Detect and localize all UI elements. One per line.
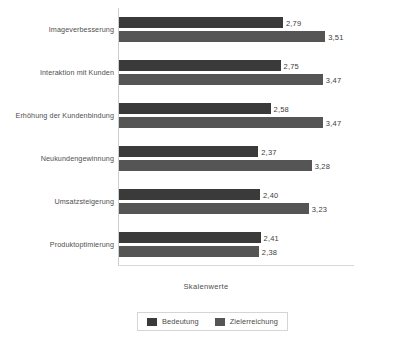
- plot-area: 2,793,512,753,472,583,472,373,282,403,23…: [118, 8, 354, 266]
- category-label: Erhöhung der Kundenbindung: [2, 111, 114, 120]
- category-label: Interaktion mit Kunden: [2, 68, 114, 77]
- bar-value-label: 2,75: [284, 61, 299, 70]
- bar-row: 3,28: [119, 160, 354, 171]
- bar-zielerreichung[interactable]: [119, 160, 312, 171]
- bar-value-label: 3,47: [326, 118, 341, 127]
- category-label: Produktoptimierung: [2, 240, 114, 249]
- bar-bedeutung[interactable]: [119, 60, 281, 71]
- bar-zielerreichung[interactable]: [119, 203, 309, 214]
- bar-bedeutung[interactable]: [119, 17, 283, 28]
- bar-value-label: 3,28: [315, 161, 330, 170]
- bar-group: 2,583,47: [119, 103, 354, 128]
- bar-bedeutung[interactable]: [119, 189, 260, 200]
- legend-label: Bedeutung: [162, 317, 199, 326]
- bar-value-label: 3,51: [328, 32, 343, 41]
- bar-value-label: 2,58: [274, 104, 289, 113]
- value-axis-line: [118, 8, 119, 266]
- bar-zielerreichung[interactable]: [119, 246, 259, 257]
- axis-title: Skalenwerte: [0, 282, 412, 291]
- category-axis: ImageverbesserungInteraktion mit KundenE…: [0, 8, 114, 266]
- bar-row: 3,47: [119, 117, 354, 128]
- bar-group: 2,373,28: [119, 146, 354, 171]
- bar-zielerreichung[interactable]: [119, 117, 323, 128]
- legend-item-zielerreichung[interactable]: Zielerreichung: [215, 317, 278, 326]
- bar-row: 2,58: [119, 103, 354, 114]
- bar-value-label: 2,38: [262, 247, 277, 256]
- bar-value-label: 3,47: [326, 75, 341, 84]
- bar-zielerreichung[interactable]: [119, 74, 323, 85]
- bar-bedeutung[interactable]: [119, 103, 271, 114]
- bar-bedeutung[interactable]: [119, 146, 258, 157]
- legend-label: Zielerreichung: [230, 317, 278, 326]
- bar-row: 2,75: [119, 60, 354, 71]
- bar-chart: ImageverbesserungInteraktion mit KundenE…: [0, 0, 412, 355]
- category-axis-line: [118, 265, 354, 266]
- category-label: Imageverbesserung: [2, 25, 114, 34]
- bar-row: 3,23: [119, 203, 354, 214]
- bar-bedeutung[interactable]: [119, 232, 261, 243]
- bar-value-label: 2,37: [261, 147, 276, 156]
- chart-legend: Bedeutung Zielerreichung: [137, 312, 288, 331]
- bar-group: 2,403,23: [119, 189, 354, 214]
- bar-value-label: 2,41: [264, 233, 279, 242]
- bar-zielerreichung[interactable]: [119, 31, 325, 42]
- bar-row: 2,40: [119, 189, 354, 200]
- category-label: Neukundengewinnung: [2, 154, 114, 163]
- bar-value-label: 3,23: [312, 204, 327, 213]
- bar-group: 2,753,47: [119, 60, 354, 85]
- bar-row: 3,47: [119, 74, 354, 85]
- bar-value-label: 2,79: [286, 18, 301, 27]
- bar-row: 2,37: [119, 146, 354, 157]
- bar-row: 2,79: [119, 17, 354, 28]
- legend-item-bedeutung[interactable]: Bedeutung: [147, 317, 199, 326]
- legend-swatch-icon: [147, 318, 157, 326]
- legend-swatch-icon: [215, 318, 225, 326]
- bar-row: 3,51: [119, 31, 354, 42]
- bar-value-label: 2,40: [263, 190, 278, 199]
- bar-row: 2,41: [119, 232, 354, 243]
- bar-group: 2,412,38: [119, 232, 354, 257]
- category-label: Umsatzsteigerung: [2, 197, 114, 206]
- bar-group: 2,793,51: [119, 17, 354, 42]
- bar-row: 2,38: [119, 246, 354, 257]
